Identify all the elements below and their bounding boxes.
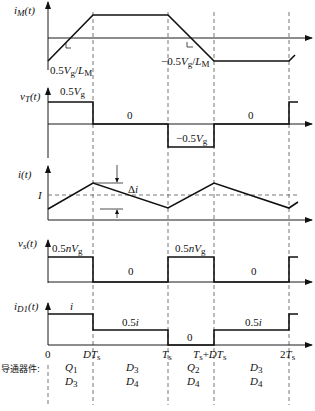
panel-transformer-voltage: vT(t) 0.5Vg 0 −0.5Vg 0	[20, 85, 312, 158]
panel-magnetizing-current: iM(t) 0.5Vg/LM −0.5Vg/LM	[14, 2, 312, 78]
tick-2ts: 2Ts	[280, 348, 296, 362]
id1-half-label-1: 0.5i	[122, 316, 139, 328]
slope-up-label: 0.5Vg/LM	[50, 64, 92, 78]
ylabel-i: i(t)	[18, 168, 32, 181]
tick-dts: DTs	[82, 348, 101, 362]
interval-4-bottom: D4	[249, 375, 263, 389]
ylabel-vt: vT(t)	[20, 90, 41, 104]
interval-1-top: Q1	[65, 361, 77, 375]
interval-2-top: D3	[125, 361, 139, 375]
vs-high-label-1: 0.5nVg	[52, 242, 83, 256]
tick-ts: Ts	[162, 348, 172, 362]
vt-high-label: 0.5Vg	[60, 85, 85, 99]
avg-current-label: I	[37, 189, 43, 201]
interval-1-bottom: D3	[64, 375, 78, 389]
ylabel-im: iM(t)	[14, 4, 35, 18]
vs-zero-label-1: 0	[128, 265, 134, 277]
ylabel-vs: vs(t)	[18, 237, 37, 251]
vs-zero-label-2: 0	[251, 265, 257, 277]
conducting-devices: 导通器件: Q1 D3 D3 D4 Q2 D4 D3 D4	[1, 361, 263, 389]
tick-0: 0	[45, 348, 51, 360]
time-axis-labels: 0 DTs Ts Ts+DTs 2Ts	[45, 348, 296, 362]
slope-down-label: −0.5Vg/LM	[161, 55, 209, 69]
panel-diode-current: iD1(t) i 0.5i 0 0.5i	[14, 300, 312, 345]
ylabel-id1: iD1(t)	[14, 300, 39, 314]
id1-zero-label: 0	[187, 331, 193, 343]
id1-half-label-2: 0.5i	[245, 316, 262, 328]
interval-3-top: Q2	[187, 361, 199, 375]
vt-low-label: −0.5Vg	[176, 132, 208, 146]
id1-full-label: i	[70, 300, 73, 312]
vt-zero-label-2: 0	[248, 109, 254, 121]
panel-inductor-current: i(t) I Δi	[18, 165, 312, 220]
interval-4-top: D3	[249, 361, 263, 375]
tick-ts-dts: Ts+DTs	[193, 348, 227, 362]
interval-2-bottom: D4	[125, 375, 139, 389]
vt-zero-label-1: 0	[127, 109, 133, 121]
conducting-devices-label: 导通器件:	[1, 363, 40, 374]
interval-3-bottom: D4	[186, 375, 200, 389]
vs-high-label-2: 0.5nVg	[175, 242, 206, 256]
ripple-label: Δi	[128, 183, 138, 195]
panel-switch-voltage: vs(t) 0.5nVg 0 0.5nVg 0	[18, 237, 312, 283]
waveform-diagram: iM(t) 0.5Vg/LM −0.5Vg/LM vT(t) 0.5Vg 0 −…	[0, 0, 315, 411]
